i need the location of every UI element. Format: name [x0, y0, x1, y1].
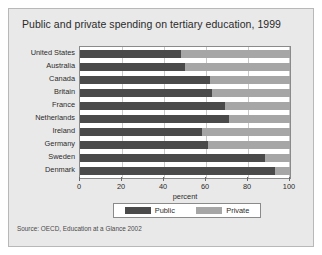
x-axis-tick-label: 80: [243, 182, 251, 191]
bar-segment-public: [80, 89, 212, 97]
y-axis-tick-label: Denmark: [11, 165, 75, 174]
bar-row: [80, 141, 290, 149]
legend-entry: Private: [196, 206, 249, 215]
x-axis-tick-label: 60: [201, 182, 209, 191]
bar-segment-public: [80, 128, 202, 136]
bar-row: [80, 115, 290, 123]
x-axis-title: percent: [79, 192, 291, 201]
legend-label: Public: [155, 206, 175, 215]
y-axis-tick-label: Australia: [11, 61, 75, 70]
chart-figure: Public and private spending on tertiary …: [8, 8, 314, 247]
bar-row: [80, 89, 290, 97]
chart-title: Public and private spending on tertiary …: [22, 18, 281, 30]
legend-entry: Public: [125, 206, 175, 215]
bar-segment-private: [275, 167, 290, 175]
x-axis-tick-label: 0: [77, 182, 81, 191]
bar-segment-private: [229, 115, 290, 123]
legend-label: Private: [226, 206, 249, 215]
y-axis-tick-label: Netherlands: [11, 113, 75, 122]
bar-segment-private: [210, 76, 290, 84]
bar-row: [80, 76, 290, 84]
bar-series-container: [80, 47, 290, 178]
bar-row: [80, 50, 290, 58]
y-axis-tick-label: United States: [11, 48, 75, 57]
bar-row: [80, 128, 290, 136]
plot-area: [79, 46, 291, 179]
bar-segment-private: [202, 128, 290, 136]
bar-row: [80, 154, 290, 162]
chart-legend: PublicPrivate: [113, 203, 261, 218]
y-axis-tick-label: Canada: [11, 74, 75, 83]
x-axis-tick-mark: [163, 177, 164, 181]
bar-segment-private: [212, 89, 290, 97]
y-axis-tick-label: France: [11, 100, 75, 109]
x-axis-tick-mark: [79, 177, 80, 181]
bar-segment-public: [80, 102, 225, 110]
x-axis-tick-mark: [289, 177, 290, 181]
y-axis-tick-label: Germany: [11, 139, 75, 148]
legend-swatch: [196, 207, 222, 214]
bar-segment-private: [185, 63, 290, 71]
x-axis-tick-mark: [121, 177, 122, 181]
bar-segment-public: [80, 50, 181, 58]
y-axis-tick-label: Ireland: [11, 126, 75, 135]
x-axis-tick-mark: [205, 177, 206, 181]
bar-row: [80, 167, 290, 175]
x-axis-tick-label: 20: [117, 182, 125, 191]
x-axis-tick-label: 40: [159, 182, 167, 191]
x-axis-tick-label: 100: [283, 182, 295, 191]
bar-row: [80, 102, 290, 110]
bar-row: [80, 63, 290, 71]
bar-segment-private: [208, 141, 290, 149]
y-axis-tick-label: Britain: [11, 87, 75, 96]
x-axis-tick-mark: [247, 177, 248, 181]
bar-segment-private: [225, 102, 290, 110]
source-note: Source: OECD, Education at a Glance 2002: [17, 225, 142, 232]
bar-segment-private: [181, 50, 290, 58]
bar-segment-public: [80, 154, 265, 162]
bar-segment-public: [80, 76, 210, 84]
y-axis-tick-label: Sweden: [11, 152, 75, 161]
legend-swatch: [125, 207, 151, 214]
bar-segment-public: [80, 115, 229, 123]
bar-segment-private: [265, 154, 290, 162]
y-axis-category-labels: United StatesAustraliaCanadaBritainFranc…: [9, 46, 75, 177]
bar-segment-public: [80, 141, 208, 149]
bar-segment-public: [80, 63, 185, 71]
bar-segment-public: [80, 167, 275, 175]
